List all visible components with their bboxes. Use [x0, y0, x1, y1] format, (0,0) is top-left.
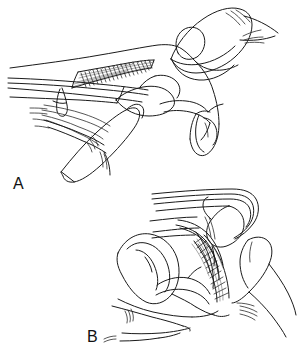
panel-label-a: A: [13, 176, 24, 192]
figure-background: [0, 0, 303, 348]
anatomical-figure-svg: [0, 0, 303, 348]
figure-root: A B: [0, 0, 303, 348]
panel-label-b: B: [87, 329, 98, 345]
